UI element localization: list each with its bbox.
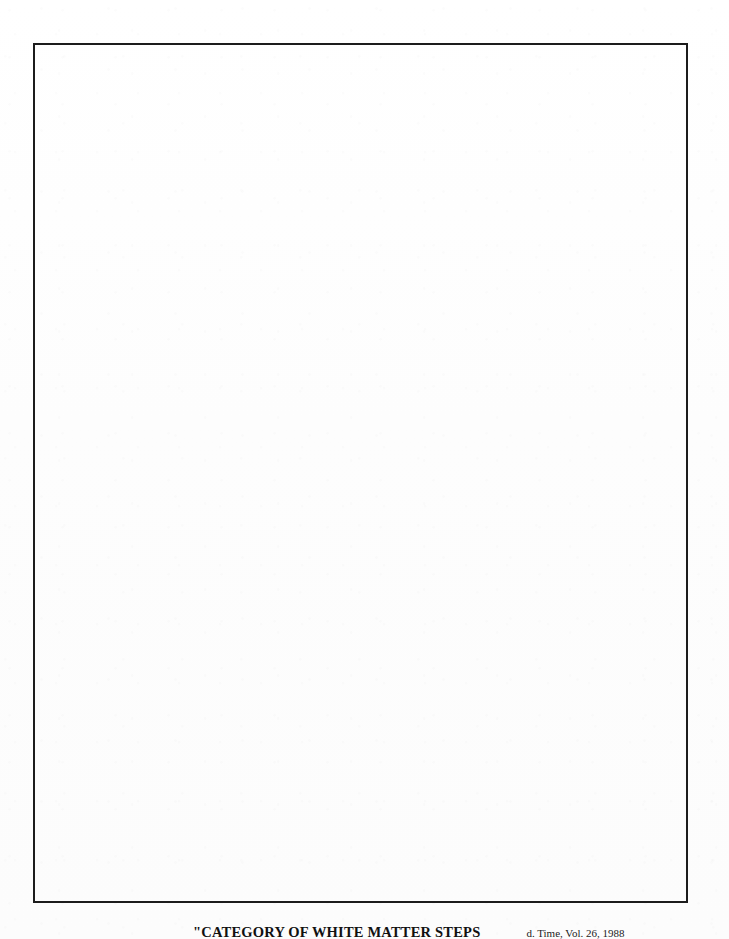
caption-title: "CATEGORY OF WHITE MATTER STEPS	[193, 925, 480, 939]
caption-citation: d. Time, Vol. 26, 1988	[526, 926, 624, 939]
scanned-page: "CATEGORY OF WHITE MATTER STEPS d. Time,…	[0, 0, 729, 939]
caption-inner: "CATEGORY OF WHITE MATTER STEPS d. Time,…	[0, 925, 729, 939]
plate-frame	[33, 43, 688, 903]
plate-interior-blank-area	[35, 45, 686, 901]
caption-row: "CATEGORY OF WHITE MATTER STEPS d. Time,…	[0, 925, 729, 939]
